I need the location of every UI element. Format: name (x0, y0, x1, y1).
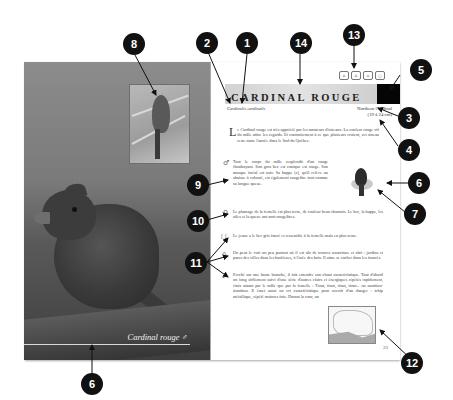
arrow-3 (378, 108, 398, 116)
callout-14: 14 (290, 32, 312, 54)
callout-12: 12 (401, 352, 423, 374)
callout-6-right: 6 (408, 172, 430, 194)
callout-1: 1 (236, 32, 258, 54)
callout-10: 10 (187, 210, 209, 232)
arrow-8 (135, 55, 156, 95)
arrow-4 (380, 120, 398, 146)
callout-4: 4 (398, 139, 420, 161)
callout-11: 11 (185, 252, 207, 274)
callout-3: 3 (398, 107, 420, 129)
arrow-11c (207, 262, 228, 277)
callout-arrows (0, 0, 453, 400)
callout-8: 8 (123, 33, 145, 55)
arrow-11a (207, 238, 228, 262)
callout-13: 13 (343, 24, 365, 46)
callout-7: 7 (404, 203, 426, 225)
arrow-7 (378, 190, 405, 212)
arrow-9 (207, 180, 228, 185)
callout-9: 9 (187, 174, 209, 196)
arrow-2 (208, 52, 230, 103)
callout-5: 5 (410, 59, 432, 81)
callout-6-bottom: 6 (81, 373, 103, 395)
callout-2: 2 (196, 32, 218, 54)
arrow-5 (390, 75, 400, 90)
arrow-1 (242, 54, 247, 103)
arrow-10 (207, 214, 228, 220)
